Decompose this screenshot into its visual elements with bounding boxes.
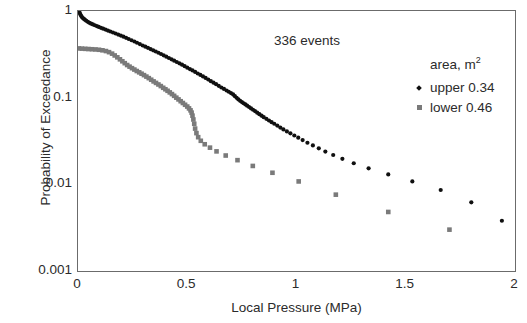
x-axis-label: Local Pressure (MPa): [77, 300, 516, 315]
plot-area: 336 events area, m2 upper 0.34 lower 0.4…: [77, 10, 516, 272]
x-tick-label: 0.5: [166, 277, 206, 291]
legend-label-lower: lower 0.46: [430, 100, 492, 115]
x-tick-label: 1: [276, 277, 316, 291]
y-tick-label: 1: [24, 3, 72, 17]
series-lower: [78, 46, 452, 232]
chart-figure: Probability of Exceedance 10.10.010.001 …: [0, 0, 527, 323]
y-axis-tick-labels: 10.10.010.001: [22, 0, 72, 290]
legend-title-superscript: 2: [476, 55, 481, 65]
diamond-marker-icon: [408, 86, 430, 90]
legend-item-lower: lower 0.46: [408, 98, 495, 118]
legend-title: area, m2: [408, 55, 495, 72]
x-tick-label: 2: [494, 277, 527, 291]
square-marker-icon: [408, 105, 430, 110]
legend-label-upper: upper 0.34: [430, 80, 495, 95]
y-tick-label: 0.01: [24, 176, 72, 190]
events-count-annotation: 336 events: [274, 33, 340, 48]
y-tick-label: 0.001: [24, 263, 72, 277]
legend-title-text: area, m: [430, 57, 476, 72]
legend: area, m2 upper 0.34 lower 0.46: [408, 55, 495, 118]
data-series-canvas: [78, 11, 515, 271]
x-tick-label: 0: [57, 277, 97, 291]
legend-item-upper: upper 0.34: [408, 78, 495, 98]
y-tick-label: 0.1: [24, 90, 72, 104]
x-tick-label: 1.5: [385, 277, 425, 291]
